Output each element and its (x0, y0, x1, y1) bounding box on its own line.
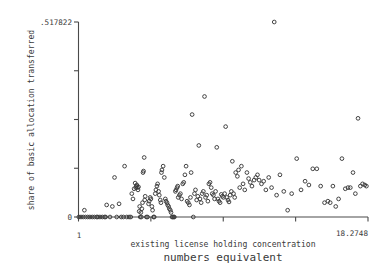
data-point (267, 176, 271, 180)
data-point (156, 182, 160, 186)
data-point (315, 167, 319, 171)
axis-labels-group: .517822 0 1 18.2748 share of basic alloc… (26, 18, 368, 264)
data-point (340, 157, 344, 161)
data-point (311, 167, 315, 171)
data-point (278, 173, 282, 177)
data-point (262, 179, 266, 183)
scatter-plot-figure: .517822 0 1 18.2748 share of basic alloc… (0, 0, 390, 269)
data-point (83, 208, 87, 212)
data-point (193, 192, 197, 196)
data-point (337, 197, 341, 201)
axes-group (74, 22, 368, 222)
data-point (150, 205, 154, 209)
data-point (111, 205, 115, 209)
y-axis-title: share of basic allocation transferred (26, 30, 36, 210)
data-point (142, 156, 146, 160)
data-point (290, 192, 294, 196)
data-point (184, 164, 188, 168)
y-axis-max-label: .517822 (40, 18, 72, 27)
data-point (299, 188, 303, 192)
data-point (198, 197, 202, 201)
data-point (157, 193, 161, 197)
data-point (189, 171, 193, 175)
data-point (238, 186, 242, 190)
data-point (161, 164, 165, 168)
x-axis-title-line2: numbers equivalent (163, 251, 282, 264)
data-point (240, 164, 244, 168)
data-point (248, 181, 252, 185)
data-point (319, 184, 323, 188)
data-point (230, 159, 234, 163)
data-point (105, 203, 109, 207)
data-point (257, 178, 261, 182)
data-point (138, 205, 142, 209)
data-point (224, 125, 228, 129)
data-point (282, 190, 286, 194)
data-point (189, 196, 193, 200)
data-point (295, 157, 299, 161)
data-point (131, 197, 135, 201)
data-point (356, 116, 360, 120)
data-point (180, 197, 184, 201)
data-points-group (77, 20, 368, 219)
data-point (143, 198, 147, 202)
data-point (169, 211, 173, 215)
data-point (241, 182, 245, 186)
data-point (197, 144, 201, 148)
data-point (229, 190, 233, 194)
data-point (245, 171, 249, 175)
data-point (206, 199, 210, 203)
data-point (117, 202, 121, 206)
data-point (351, 171, 355, 175)
data-point (143, 194, 147, 198)
data-point (215, 145, 219, 149)
data-point (270, 186, 274, 190)
data-point (359, 184, 363, 188)
data-point (203, 95, 207, 99)
data-point (162, 176, 166, 180)
data-point (272, 20, 276, 24)
data-point (214, 190, 218, 194)
data-point (275, 193, 279, 197)
data-point (348, 186, 352, 190)
data-point (123, 164, 127, 168)
data-point (151, 208, 155, 212)
data-point (209, 186, 213, 190)
x-axis-title-line1: existing license holding concentration (130, 239, 315, 249)
data-point (264, 188, 268, 192)
data-point (236, 174, 240, 178)
data-point (307, 183, 311, 187)
data-point (237, 168, 241, 172)
data-point (113, 176, 117, 180)
plot-canvas: .517822 0 1 18.2748 share of basic alloc… (0, 0, 390, 269)
data-point (190, 113, 194, 117)
data-point (331, 184, 335, 188)
x-axis-min-label: 1 (77, 231, 82, 240)
data-point (140, 207, 144, 211)
data-point (199, 201, 203, 205)
y-axis-min-label: 0 (67, 213, 72, 222)
data-point (130, 192, 134, 196)
data-point (232, 192, 236, 196)
data-point (250, 184, 254, 188)
x-axis-max-label: 18.2748 (336, 229, 368, 238)
data-point (286, 208, 290, 212)
data-point (334, 205, 338, 209)
data-point (247, 177, 251, 181)
data-point (183, 173, 187, 177)
data-point (303, 179, 307, 183)
data-point (243, 188, 247, 192)
data-point (233, 196, 237, 200)
data-point (194, 188, 198, 192)
data-point (354, 192, 358, 196)
